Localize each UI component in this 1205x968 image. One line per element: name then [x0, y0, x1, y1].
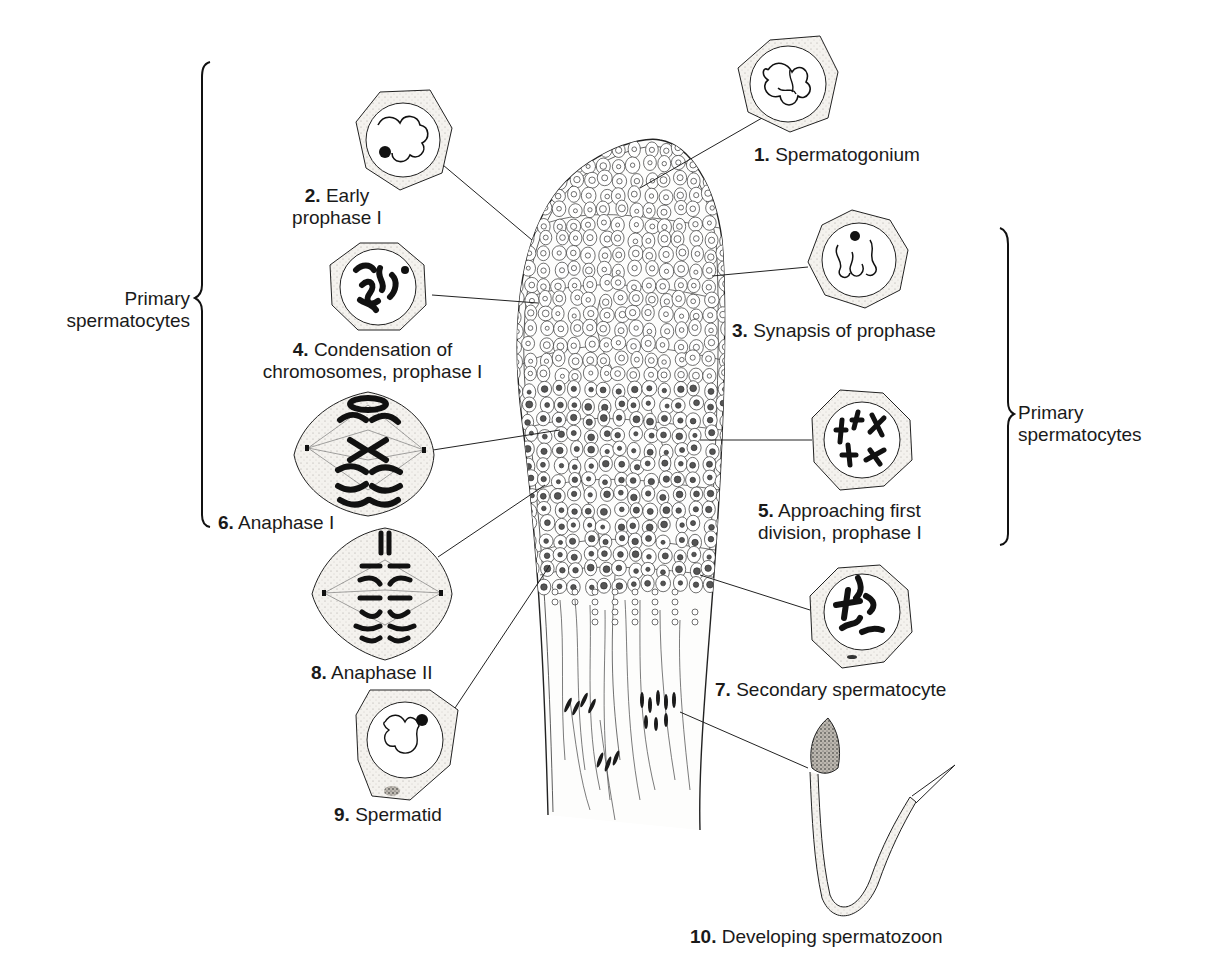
stage-4-number: 4.	[293, 339, 309, 360]
stage-9-label: 9. Spermatid	[334, 804, 442, 826]
stage-6-label: 6. Anaphase I	[218, 512, 334, 534]
stage-2-text-line-2: prophase I	[282, 207, 392, 229]
stage-4-label: 4. Condensation of chromosomes, prophase…	[250, 339, 495, 383]
group-left-line-1: Primary	[30, 288, 190, 310]
seminiferous-tubule	[506, 139, 735, 830]
stage-3-number: 3.	[732, 320, 748, 341]
stage-1-text: Spermatogonium	[775, 144, 920, 165]
spermatogenesis-diagram	[0, 0, 1205, 968]
stage-4-text-line-2: chromosomes, prophase I	[250, 361, 495, 383]
stage-2-number: 2.	[305, 185, 321, 206]
stage-9-number: 9.	[334, 804, 350, 825]
group-label-left: Primary spermatocytes	[30, 288, 190, 332]
stage-5-label: 5. Approaching first division, prophase …	[758, 500, 922, 544]
stage-1-number: 1.	[754, 144, 770, 165]
stage-1-cell	[738, 36, 838, 132]
stage-5-cell	[812, 390, 912, 490]
stage-9-cell	[356, 690, 458, 800]
stage-5-text-line-1: Approaching first	[778, 500, 921, 521]
group-label-right: Primary spermatocytes	[1018, 402, 1142, 446]
stage-2-label: 2. Early prophase I	[282, 185, 392, 229]
group-right-line-2: spermatocytes	[1018, 424, 1142, 446]
stage-7-label: 7. Secondary spermatocyte	[715, 679, 946, 701]
bracket-right	[1000, 228, 1014, 545]
stage-2-text-line-1: Early	[326, 185, 369, 206]
stage-7-number: 7.	[715, 679, 731, 700]
stage-8-number: 8.	[311, 662, 327, 683]
stage-3-label: 3. Synapsis of prophase	[732, 320, 936, 342]
stage-5-text-line-2: division, prophase I	[758, 522, 922, 544]
stage-1-label: 1. Spermatogonium	[754, 144, 920, 166]
stage-6-number: 6.	[218, 512, 234, 533]
stage-8-cell	[312, 528, 452, 660]
stage-6-text: Anaphase I	[238, 512, 334, 533]
stage-10-text: Developing spermatozoon	[722, 926, 943, 947]
stage-6-cell	[294, 392, 434, 516]
stage-4-cell	[330, 243, 426, 330]
stage-3-cell	[808, 210, 908, 308]
stage-9-text: Spermatid	[355, 804, 442, 825]
stage-7-cell	[810, 565, 912, 668]
stage-10-spermatozoon	[810, 718, 955, 916]
stage-4-text-line-1: Condensation of	[314, 339, 452, 360]
stage-10-label: 10. Developing spermatozoon	[690, 926, 942, 948]
stage-8-label: 8. Anaphase II	[311, 662, 433, 684]
bracket-left	[195, 62, 210, 527]
stage-2-cell	[356, 90, 452, 190]
group-right-line-1: Primary	[1018, 402, 1142, 424]
stage-8-text: Anaphase II	[331, 662, 432, 683]
stage-10-number: 10.	[690, 926, 716, 947]
stage-3-text: Synapsis of prophase	[753, 320, 936, 341]
stage-5-number: 5.	[758, 500, 774, 521]
stage-7-text: Secondary spermatocyte	[736, 679, 946, 700]
group-left-line-2: spermatocytes	[30, 310, 190, 332]
